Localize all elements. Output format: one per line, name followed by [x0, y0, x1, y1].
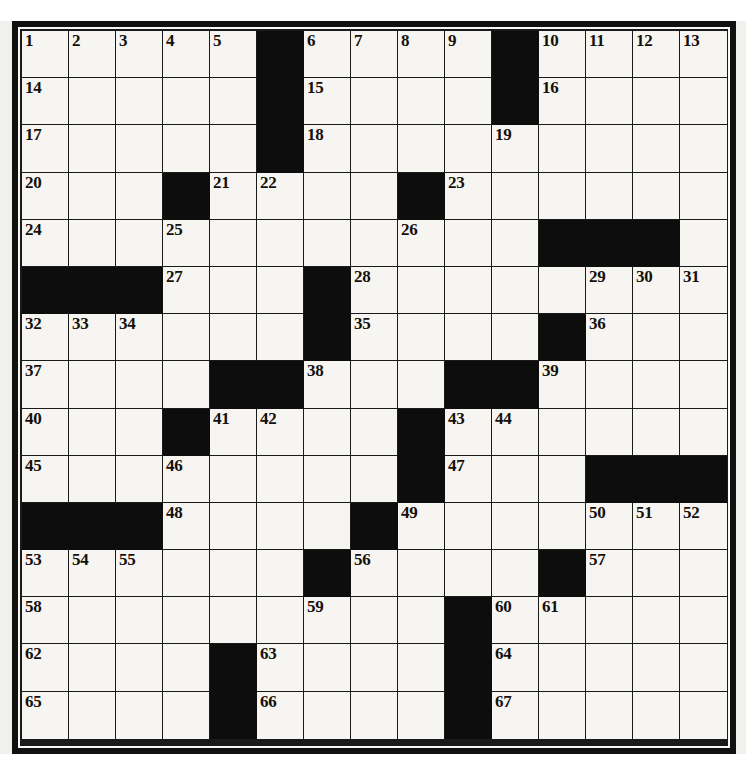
- crossword-open-cell[interactable]: 44: [492, 409, 539, 456]
- crossword-open-cell[interactable]: [445, 220, 492, 267]
- crossword-open-cell[interactable]: 19: [492, 125, 539, 172]
- crossword-open-cell[interactable]: 25: [163, 220, 210, 267]
- crossword-open-cell[interactable]: 17: [22, 125, 69, 172]
- crossword-open-cell[interactable]: [633, 314, 680, 361]
- crossword-open-cell[interactable]: [680, 597, 727, 644]
- crossword-open-cell[interactable]: 7: [351, 31, 398, 78]
- crossword-open-cell[interactable]: [116, 78, 163, 125]
- crossword-open-cell[interactable]: 57: [586, 550, 633, 597]
- crossword-open-cell[interactable]: [351, 125, 398, 172]
- crossword-open-cell[interactable]: 40: [22, 409, 69, 456]
- crossword-open-cell[interactable]: [633, 550, 680, 597]
- crossword-open-cell[interactable]: [633, 597, 680, 644]
- crossword-open-cell[interactable]: [351, 597, 398, 644]
- crossword-open-cell[interactable]: [586, 692, 633, 739]
- crossword-open-cell[interactable]: 32: [22, 314, 69, 361]
- crossword-open-cell[interactable]: 28: [351, 267, 398, 314]
- crossword-open-cell[interactable]: [163, 597, 210, 644]
- crossword-open-cell[interactable]: [445, 314, 492, 361]
- crossword-open-cell[interactable]: [539, 503, 586, 550]
- crossword-open-cell[interactable]: [69, 597, 116, 644]
- crossword-open-cell[interactable]: [680, 125, 727, 172]
- crossword-open-cell[interactable]: 48: [163, 503, 210, 550]
- crossword-open-cell[interactable]: 64: [492, 644, 539, 691]
- crossword-open-cell[interactable]: [116, 361, 163, 408]
- crossword-open-cell[interactable]: [163, 314, 210, 361]
- crossword-open-cell[interactable]: 20: [22, 173, 69, 220]
- crossword-open-cell[interactable]: [633, 409, 680, 456]
- crossword-open-cell[interactable]: [586, 644, 633, 691]
- crossword-open-cell[interactable]: 30: [633, 267, 680, 314]
- crossword-open-cell[interactable]: [539, 644, 586, 691]
- crossword-open-cell[interactable]: [586, 78, 633, 125]
- crossword-open-cell[interactable]: 53: [22, 550, 69, 597]
- crossword-open-cell[interactable]: [69, 220, 116, 267]
- crossword-open-cell[interactable]: [210, 456, 257, 503]
- crossword-open-cell[interactable]: [304, 220, 351, 267]
- crossword-open-cell[interactable]: [257, 456, 304, 503]
- crossword-open-cell[interactable]: [398, 692, 445, 739]
- crossword-open-cell[interactable]: [445, 503, 492, 550]
- crossword-open-cell[interactable]: 39: [539, 361, 586, 408]
- crossword-open-cell[interactable]: 31: [680, 267, 727, 314]
- crossword-open-cell[interactable]: [257, 597, 304, 644]
- crossword-open-cell[interactable]: 14: [22, 78, 69, 125]
- crossword-open-cell[interactable]: [69, 644, 116, 691]
- crossword-open-cell[interactable]: [69, 409, 116, 456]
- crossword-open-cell[interactable]: 58: [22, 597, 69, 644]
- crossword-open-cell[interactable]: [398, 361, 445, 408]
- crossword-open-cell[interactable]: [680, 173, 727, 220]
- crossword-open-cell[interactable]: 24: [22, 220, 69, 267]
- crossword-open-cell[interactable]: [680, 314, 727, 361]
- crossword-open-cell[interactable]: [539, 173, 586, 220]
- crossword-grid[interactable]: 1234567891011121314151617181920212223242…: [20, 29, 728, 746]
- crossword-open-cell[interactable]: 26: [398, 220, 445, 267]
- crossword-open-cell[interactable]: [210, 597, 257, 644]
- crossword-open-cell[interactable]: 1: [22, 31, 69, 78]
- crossword-open-cell[interactable]: [304, 503, 351, 550]
- crossword-open-cell[interactable]: [633, 125, 680, 172]
- crossword-open-cell[interactable]: [633, 361, 680, 408]
- crossword-open-cell[interactable]: [351, 409, 398, 456]
- crossword-open-cell[interactable]: [351, 78, 398, 125]
- crossword-open-cell[interactable]: [210, 267, 257, 314]
- crossword-open-cell[interactable]: [586, 173, 633, 220]
- crossword-open-cell[interactable]: 18: [304, 125, 351, 172]
- crossword-open-cell[interactable]: [257, 550, 304, 597]
- crossword-open-cell[interactable]: 11: [586, 31, 633, 78]
- crossword-open-cell[interactable]: 15: [304, 78, 351, 125]
- crossword-open-cell[interactable]: [304, 456, 351, 503]
- crossword-open-cell[interactable]: 21: [210, 173, 257, 220]
- crossword-open-cell[interactable]: 67: [492, 692, 539, 739]
- crossword-open-cell[interactable]: 46: [163, 456, 210, 503]
- crossword-open-cell[interactable]: 56: [351, 550, 398, 597]
- crossword-open-cell[interactable]: 45: [22, 456, 69, 503]
- crossword-open-cell[interactable]: [633, 692, 680, 739]
- crossword-open-cell[interactable]: [492, 314, 539, 361]
- crossword-open-cell[interactable]: 66: [257, 692, 304, 739]
- crossword-open-cell[interactable]: [116, 173, 163, 220]
- crossword-open-cell[interactable]: [116, 597, 163, 644]
- crossword-open-cell[interactable]: [116, 456, 163, 503]
- crossword-open-cell[interactable]: [163, 361, 210, 408]
- crossword-open-cell[interactable]: [69, 173, 116, 220]
- crossword-open-cell[interactable]: [351, 456, 398, 503]
- crossword-open-cell[interactable]: 36: [586, 314, 633, 361]
- crossword-open-cell[interactable]: 3: [116, 31, 163, 78]
- crossword-open-cell[interactable]: [492, 267, 539, 314]
- crossword-open-cell[interactable]: 65: [22, 692, 69, 739]
- crossword-open-cell[interactable]: [539, 409, 586, 456]
- crossword-open-cell[interactable]: 43: [445, 409, 492, 456]
- crossword-open-cell[interactable]: [398, 550, 445, 597]
- crossword-open-cell[interactable]: 16: [539, 78, 586, 125]
- crossword-open-cell[interactable]: [69, 692, 116, 739]
- crossword-open-cell[interactable]: 35: [351, 314, 398, 361]
- crossword-open-cell[interactable]: [492, 456, 539, 503]
- crossword-open-cell[interactable]: [680, 550, 727, 597]
- crossword-open-cell[interactable]: [210, 503, 257, 550]
- crossword-open-cell[interactable]: 22: [257, 173, 304, 220]
- crossword-open-cell[interactable]: [398, 125, 445, 172]
- crossword-open-cell[interactable]: [680, 78, 727, 125]
- crossword-open-cell[interactable]: 51: [633, 503, 680, 550]
- crossword-open-cell[interactable]: [257, 314, 304, 361]
